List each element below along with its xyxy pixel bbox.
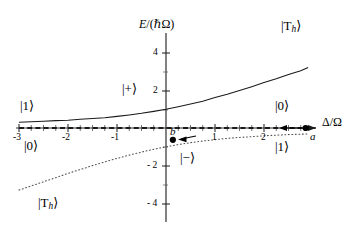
- curve-plus-branch: [19, 67, 308, 122]
- x-tick-label-minus-3: -3: [13, 133, 21, 143]
- point-a-marker: [303, 125, 309, 131]
- y-tick-label-2: 2: [153, 86, 158, 96]
- label-ket-plus: |+⟩: [122, 82, 137, 95]
- sweep-arrow-left: [178, 136, 196, 142]
- y-tick-label-minus-2: - 2: [147, 161, 157, 171]
- label-ket-Th-upper: |Th⟩: [281, 19, 301, 35]
- delta-symbol: Δ: [322, 115, 330, 129]
- ket-Th-lower-close: ⟩: [53, 195, 58, 210]
- x-tick-label-minus-1: -1: [111, 133, 119, 143]
- label-ket-Th-lower: |Th⟩: [38, 196, 58, 212]
- label-ket-1-left: |1⟩: [20, 99, 34, 112]
- label-point-b: b: [170, 126, 176, 137]
- x-tick-label-2: 2: [261, 133, 266, 143]
- label-ket-0-left: |0⟩: [24, 139, 38, 152]
- x-axis-title: Δ/Ω: [322, 116, 342, 128]
- x-tick-label-1: 1: [212, 133, 217, 143]
- point-b-marker: [170, 137, 176, 143]
- label-ket-0-right: |0⟩: [275, 99, 289, 112]
- y-axis-title: E/(ℏΩ): [139, 18, 174, 30]
- y-tick-label-minus-4: - 4: [147, 199, 157, 209]
- ket-Th-upper-open: |T: [281, 18, 292, 33]
- energy-level-diagram-figure: E/(ℏΩ) Δ/Ω -3 -2 -1 1 2 4 2 - 2 - 4 |1⟩ …: [0, 0, 356, 231]
- y-axis-title-close-paren: ): [170, 17, 174, 31]
- sweep-arrow-right: [279, 125, 301, 131]
- x-axis-omega-symbol: Ω: [333, 115, 342, 129]
- label-ket-minus: |−⟩: [180, 151, 195, 164]
- ket-Th-lower-open: |T: [38, 195, 49, 210]
- y-tick-label-4: 4: [153, 48, 158, 58]
- x-tick-label-minus-2: -2: [62, 133, 70, 143]
- label-ket-1-right: |1⟩: [275, 140, 289, 153]
- ket-Th-upper-close: ⟩: [296, 18, 301, 33]
- label-point-a: a: [310, 131, 316, 142]
- omega-symbol: Ω: [161, 17, 170, 31]
- curves-group: [19, 67, 315, 190]
